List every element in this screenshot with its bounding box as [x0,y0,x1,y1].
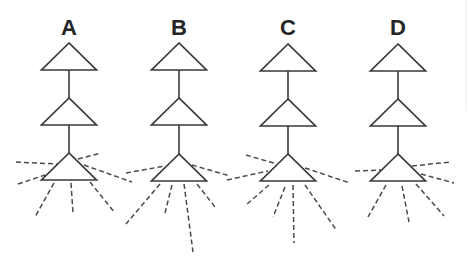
dashed-process-line-b-6 [197,184,215,207]
dashed-process-line-c-6 [293,185,294,243]
panel-b-shapes [126,43,230,252]
panel-c-shapes [227,44,350,243]
triangle-node-c-2 [261,99,316,126]
panel-d: D [355,15,454,222]
panel-label-c: C [280,15,296,40]
dashed-process-line-b-4 [165,185,172,213]
dashed-process-line-b-1 [126,166,165,173]
dashed-process-line-b-3 [126,184,160,224]
triangle-node-d-3 [371,154,426,181]
dashed-process-line-c-5 [273,187,285,217]
dashed-process-line-d-1 [355,170,381,171]
panel-c: C [227,15,350,243]
dashed-process-line-a-1 [16,162,57,164]
dashed-process-line-a-3 [78,153,101,159]
dashed-process-line-d-2 [412,162,451,166]
triangle-node-d-1 [371,44,426,71]
dashed-process-line-b-5 [184,184,193,252]
dashed-process-line-d-4 [368,185,386,217]
dashed-process-line-c-4 [246,185,269,205]
dashed-process-line-c-1 [246,155,277,164]
triangle-node-c-1 [261,44,316,71]
panel-label-d: D [390,15,406,40]
dashed-process-line-a-6 [71,183,73,213]
triangle-node-a-2 [42,98,97,125]
dashed-process-line-a-5 [35,183,54,217]
panel-label-b: B [171,15,187,40]
dashed-process-line-d-5 [402,186,409,222]
panel-a: A [16,15,132,217]
triangle-node-b-1 [152,43,207,70]
dashed-process-line-c-7 [305,185,337,231]
panel-label-a: A [61,15,77,40]
dashed-process-line-d-6 [416,184,444,216]
panel-d-shapes [355,44,454,222]
triangle-node-a-1 [42,43,97,70]
panel-b: B [126,15,230,252]
triangle-node-b-2 [152,98,207,125]
diagram-canvas: A B C D [0,0,469,264]
panel-a-shapes [16,43,132,217]
dashed-process-line-a-7 [90,182,115,213]
triangle-node-d-2 [371,99,426,126]
triangle-node-c-3 [261,154,316,181]
